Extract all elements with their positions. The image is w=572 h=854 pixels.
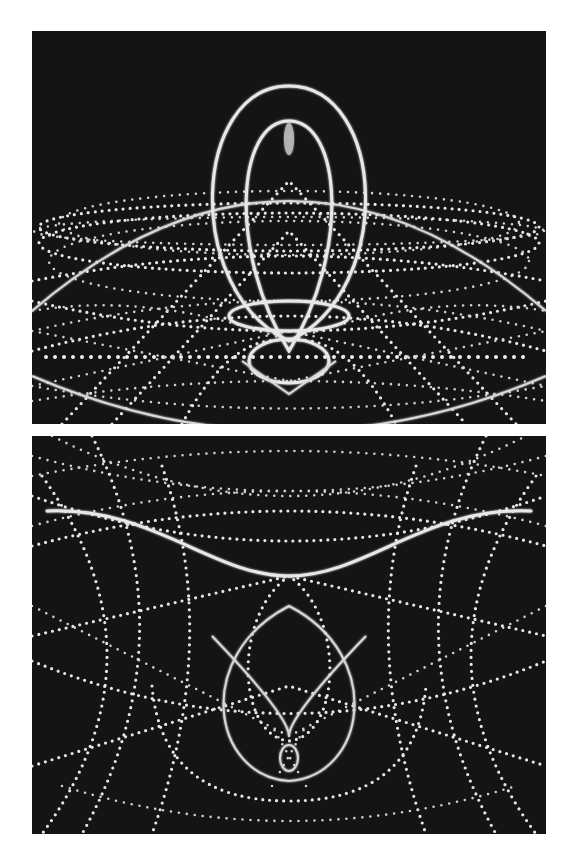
figure-panel-top: Glowing teardrop loop above a dotted dis…: [32, 31, 546, 424]
figure-panel-bottom: Solid wavy horizontal curve above crossi…: [32, 436, 546, 834]
trajectory-plot-bottom: [32, 436, 546, 834]
trajectory-plot-top: [32, 31, 546, 424]
